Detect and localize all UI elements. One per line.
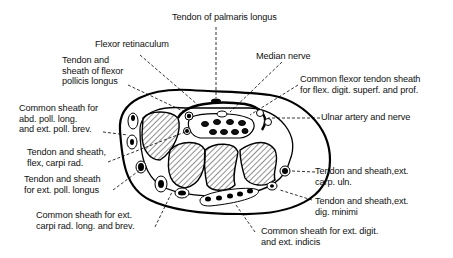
label-fcr: Tendon and sheath, flex, carpi rad.	[27, 147, 106, 168]
label-median-nerve: Median nerve	[256, 51, 310, 62]
palmaris-longus-tendon	[211, 99, 221, 104]
ulnar-nerve	[265, 119, 272, 126]
label-common-flexor-sheath: Common flexor tendon sheath for flex. di…	[300, 74, 420, 95]
epl-tendon	[136, 161, 146, 173]
label-edm: Tendon and sheath,ext. dig. minimi	[315, 196, 408, 217]
label-epl: Tendon and sheath for ext. poll. longus	[24, 174, 100, 195]
label-ulnar-artery-nerve: Ulnar artery and nerve	[321, 112, 410, 123]
label-ext-digit-indicis: Common sheath for ext. digit. and ext. i…	[261, 226, 378, 247]
label-palmaris-longus: Tendon of palmaris longus	[172, 12, 277, 23]
carpal-bone-capitate	[204, 144, 238, 190]
label-flexor-retinaculum: Flexor retinaculum	[95, 39, 169, 50]
carpal-bone-hamate	[240, 143, 277, 186]
median-nerve	[217, 111, 227, 117]
label-ecu: Tendon and sheath,ext. carp. uln.	[315, 166, 408, 187]
label-abd-poll-long: Common sheath for abd. poll. long. and e…	[19, 103, 98, 135]
label-ecrl-ecrb: Common sheath for ext. carpi rad. long. …	[36, 210, 134, 231]
fpl-tendon	[185, 112, 193, 120]
label-fpl: Tendon and sheath of flexor pollicis lon…	[62, 55, 123, 87]
fcr-tendon	[184, 128, 191, 135]
